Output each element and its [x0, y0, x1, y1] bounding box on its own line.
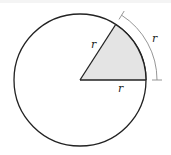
label-radius-lower: r	[118, 82, 124, 95]
radian-diagram: r r r	[0, 0, 171, 155]
arc-marker-tick-top	[119, 11, 124, 19]
label-radius-upper: r	[91, 38, 97, 51]
label-arc-length: r	[152, 32, 158, 45]
